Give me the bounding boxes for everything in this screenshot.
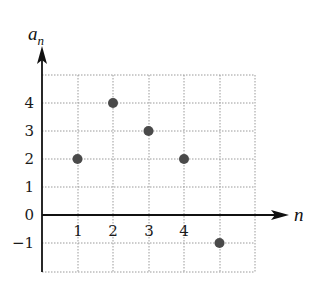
x-tick-labels: 1 2 3 4 — [73, 222, 189, 240]
y-tick-4: 4 — [24, 94, 34, 112]
x-axis — [42, 210, 289, 220]
x-tick-1: 1 — [73, 222, 83, 240]
sequence-plot: an n 4 3 2 1 0 −1 1 2 3 4 — [0, 0, 311, 287]
y-tick-3: 3 — [24, 122, 34, 140]
y-tick-2: 2 — [24, 150, 34, 168]
data-point — [108, 98, 118, 108]
y-tick-labels: 4 3 2 1 0 −1 — [12, 94, 34, 252]
y-tick-neg1: −1 — [12, 234, 34, 252]
data-point — [73, 154, 83, 164]
y-tick-1: 1 — [24, 178, 34, 196]
data-point — [179, 154, 189, 164]
y-tick-0: 0 — [24, 206, 34, 224]
x-tick-4: 4 — [179, 222, 189, 240]
data-point — [215, 238, 225, 248]
data-point — [144, 126, 154, 136]
x-tick-3: 3 — [144, 222, 154, 240]
y-axis-label: an — [28, 23, 44, 48]
x-axis-label: n — [294, 204, 304, 225]
x-tick-2: 2 — [108, 222, 118, 240]
